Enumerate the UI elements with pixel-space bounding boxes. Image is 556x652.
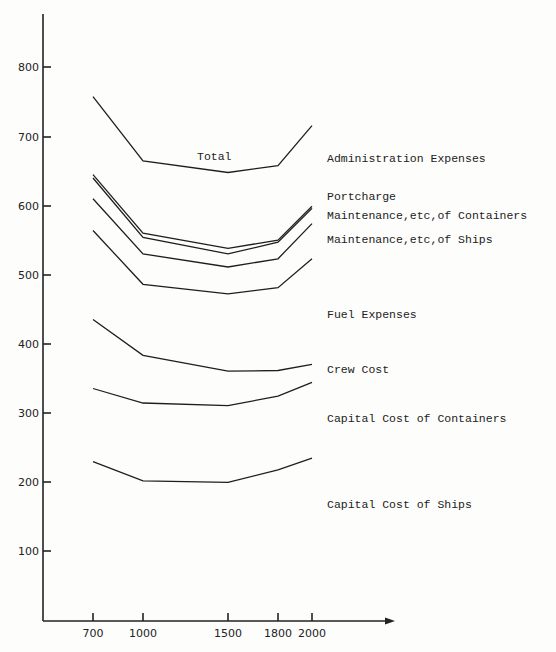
- y-tick-600: 600: [18, 200, 39, 213]
- y-ticks: [43, 67, 51, 551]
- label-portcharge: Portcharge: [327, 190, 396, 203]
- x-tick-2000: 2000: [298, 627, 326, 640]
- series-line-maintenance-etc-of-containers: [93, 178, 312, 254]
- x-tick-700: 700: [83, 627, 104, 640]
- y-tick-500: 500: [18, 269, 39, 282]
- label-capital-cost-ships: Capital Cost of Ships: [327, 498, 472, 511]
- x-tick-1500: 1500: [214, 627, 242, 640]
- y-tick-400: 400: [18, 338, 39, 351]
- label-crew-cost: Crew Cost: [327, 363, 389, 376]
- series-line-portcharge: [93, 175, 312, 249]
- x-tick-1800: 1800: [264, 627, 292, 640]
- label-maintenance-containers: Maintenance,etc,of Containers: [327, 209, 527, 222]
- series-line-maintenance-etc-of-ships: [93, 199, 312, 267]
- series-line-fuel-expenses: [93, 231, 312, 294]
- chart-canvas: 100 200 300 400 500 600 700 800 700 1000…: [0, 0, 556, 652]
- series-line-capital-cost-of-containers: [93, 382, 312, 405]
- x-ticks: [93, 613, 312, 621]
- series-line-crew-cost: [93, 320, 312, 372]
- y-tick-800: 800: [18, 61, 39, 74]
- label-capital-cost-containers: Capital Cost of Containers: [327, 412, 506, 425]
- series-line-capital-cost-of-ships: [93, 458, 312, 482]
- label-administration-expenses: Administration Expenses: [327, 152, 486, 165]
- label-maintenance-ships: Maintenance,etc,of Ships: [327, 233, 493, 246]
- label-fuel-expenses: Fuel Expenses: [327, 308, 417, 321]
- x-tick-1000: 1000: [129, 627, 157, 640]
- y-tick-100: 100: [18, 545, 39, 558]
- y-tick-labels: 100 200 300 400 500 600 700 800: [18, 61, 39, 558]
- y-tick-200: 200: [18, 476, 39, 489]
- y-tick-300: 300: [18, 407, 39, 420]
- total-annotation: Total: [197, 150, 232, 163]
- x-tick-labels: 700 1000 1500 1800 2000: [83, 627, 327, 640]
- y-tick-700: 700: [18, 131, 39, 144]
- x-axis-arrow-icon: [385, 618, 395, 625]
